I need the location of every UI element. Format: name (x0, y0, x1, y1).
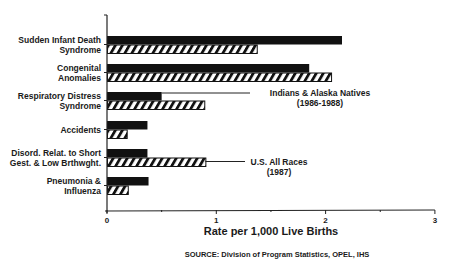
category-label: Pneumonia & (47, 176, 101, 186)
category-label: Syndrome (59, 101, 101, 111)
x-tick-label: 2 (323, 216, 328, 225)
category-label: Gest. & Low Brthwght. (10, 158, 101, 168)
x-tick-label: 0 (105, 216, 110, 225)
x-axis-line (105, 210, 435, 211)
category-label: Syndrome (59, 45, 101, 55)
x-tick-label: 1 (214, 216, 219, 225)
bar-indians-alaska-natives (107, 149, 147, 158)
category-labels: Sudden Infant DeathSyndromeCongenitalAno… (10, 35, 101, 196)
bar-us-all-races (108, 186, 129, 195)
bar-indians-alaska-natives (107, 177, 149, 186)
category-label: Respiratory Distress (18, 91, 101, 101)
category-label: Accidents (60, 125, 101, 135)
annotation-indians-alaska-natives: (1986-1988) (297, 98, 343, 108)
x-axis-label: Rate per 1,000 Live Births (204, 225, 339, 237)
x-tick-label: 3 (433, 216, 438, 225)
category-label: Anomalies (58, 73, 101, 83)
category-label: Disord. Relat. to Short (11, 148, 101, 158)
annotation-us-all-races: U.S. All Races (251, 157, 308, 167)
bar-us-all-races (108, 158, 206, 167)
bar-us-all-races (108, 73, 332, 82)
bar-indians-alaska-natives (107, 36, 342, 45)
bar-indians-alaska-natives (107, 92, 162, 101)
bar-indians-alaska-natives (107, 64, 309, 73)
source-note: SOURCE: Division of Program Statistics, … (185, 250, 370, 259)
bar-us-all-races (108, 101, 205, 110)
bar-chart: Sudden Infant DeathSyndromeCongenitalAno… (0, 0, 458, 269)
annotation-us-all-races: (1987) (267, 167, 292, 177)
category-label: Sudden Infant Death (18, 35, 101, 45)
bar-us-all-races (108, 45, 258, 54)
category-label: Influenza (64, 186, 101, 196)
bar-indians-alaska-natives (107, 121, 147, 130)
annotation-indians-alaska-natives: Indians & Alaska Natives (270, 88, 371, 98)
bar-us-all-races (108, 130, 128, 139)
bars (107, 36, 342, 195)
category-label: Congenital (57, 63, 101, 73)
